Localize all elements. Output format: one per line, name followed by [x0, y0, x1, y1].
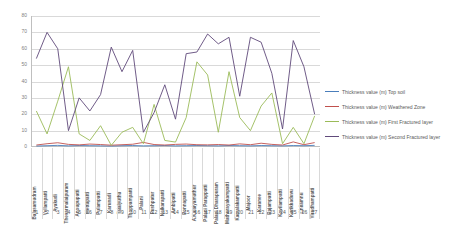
x-axis-number: 3: [52, 205, 63, 219]
x-axis-number: 2: [42, 205, 53, 219]
legend-label: Thickness value (m) Weathered Zone: [342, 104, 425, 110]
x-axis-number: 4: [63, 205, 74, 219]
x-axis-label-cell: Pushpatur: [149, 148, 160, 205]
legend-color-swatch: [325, 91, 339, 92]
x-axis-label-cell: Balasamudram: [31, 148, 42, 205]
y-axis-tick-label: 60: [21, 46, 27, 51]
x-axis-label-cell: Ayakudi: [52, 148, 63, 205]
x-axis-label-cell: Kamalakampatti: [234, 148, 245, 205]
chart-container: 01020304050607080 BalasamudramVellampatt…: [0, 0, 461, 230]
legend-color-swatch: [325, 106, 339, 107]
y-axis-tick-label: 50: [21, 62, 27, 67]
x-axis-number: 21: [245, 205, 256, 219]
x-axis-number: 6: [85, 205, 96, 219]
y-axis-tick-label: 0: [24, 144, 27, 149]
x-axis-label-cell: Anoupupatti: [74, 148, 85, 205]
x-axis-label-cell: Kurikkaduvu: [288, 148, 299, 205]
legend-color-swatch: [325, 136, 339, 137]
x-axis-number: 24: [277, 205, 288, 219]
legend-color-swatch: [325, 121, 339, 122]
x-axis-number: 7: [95, 205, 106, 219]
x-axis-number: 17: [202, 205, 213, 219]
x-axis-number: 20: [234, 205, 245, 219]
series-line: [36, 62, 314, 146]
legend-label: Thickness value (m) Second Fractured lay…: [342, 134, 440, 140]
x-axis-number: 11: [138, 205, 149, 219]
x-axis-label-cell: Ambipatti: [170, 148, 181, 205]
x-axis-label-cell: Kovilampatti: [277, 148, 288, 205]
x-axis-label-cell: Majoor: [245, 148, 256, 205]
x-axis-numbers: 1234567891011121314151617181920212223242…: [31, 205, 320, 219]
x-axis-number: 23: [266, 205, 277, 219]
y-axis-tick-label: 40: [21, 79, 27, 84]
x-axis-number: 5: [74, 205, 85, 219]
x-axis-number: 25: [288, 205, 299, 219]
x-axis-number: 15: [181, 205, 192, 219]
x-axis-number: 27: [309, 205, 320, 219]
x-axis-label-cell: Pulampatti: [95, 148, 106, 205]
chart-legend: Thickness value (m) Top soilThickness va…: [325, 86, 461, 146]
x-axis-label-cell: Mathurayakampatti: [224, 148, 235, 205]
x-axis-label-cell: Neikarapatti: [159, 148, 170, 205]
y-axis-tick-label: 80: [21, 13, 27, 18]
x-axis-label-cell: Chilamnu: [299, 148, 310, 205]
x-axis-number: 10: [127, 205, 138, 219]
x-axis-number: 14: [170, 205, 181, 219]
x-axis-label-cell: Karanee: [256, 148, 267, 205]
x-axis-number: 22: [256, 205, 267, 219]
x-axis-label-cell: Vellampatti: [42, 148, 53, 205]
x-axis-label-cell: Karunadi: [106, 148, 117, 205]
x-axis-number: 13: [159, 205, 170, 219]
plot-area: [31, 16, 320, 147]
series-lines: [31, 16, 320, 147]
series-line: [36, 145, 314, 146]
x-axis-number: 8: [106, 205, 117, 219]
x-axis-label-cell: Palani Parappatti: [202, 148, 213, 205]
x-axis-label-cell: Virudhampatti: [309, 148, 320, 205]
x-axis-number: 9: [117, 205, 128, 219]
legend-item[interactable]: Thickness value (m) First Fractured laye…: [325, 116, 461, 127]
y-axis-tick-label: 70: [21, 29, 27, 34]
y-axis-tick-label: 30: [21, 95, 27, 100]
x-axis-number: 26: [299, 205, 310, 219]
x-axis-number: 19: [224, 205, 235, 219]
legend-item[interactable]: Thickness value (m) Second Fractured lay…: [325, 131, 461, 142]
y-axis: 01020304050607080: [0, 0, 31, 147]
x-axis-label-cell: Mettupatti: [85, 148, 96, 205]
x-axis-number: 12: [149, 205, 160, 219]
x-axis-label-cell: Thoppampatti: [127, 148, 138, 205]
x-axis-label-cell: Ponnapatti: [181, 148, 192, 205]
y-axis-tick-label: 10: [21, 128, 27, 133]
x-axis-label-cell: A.Kalaiyamuthur: [192, 148, 203, 205]
x-axis-labels: BalasamudramVellampattiAyakudiThevarmala…: [31, 148, 320, 205]
x-axis-number: 18: [213, 205, 224, 219]
legend-item[interactable]: Thickness value (m) Top soil: [325, 86, 461, 97]
x-axis-number: 1: [31, 205, 42, 219]
x-axis-label-cell: Palani Dharapuram: [213, 148, 224, 205]
x-axis-number: 16: [192, 205, 203, 219]
legend-item[interactable]: Thickness value (m) Weathered Zone: [325, 101, 461, 112]
x-axis-label-cell: Thevarmalaipuram: [63, 148, 74, 205]
legend-label: Thickness value (m) Top soil: [342, 89, 405, 95]
legend-label: Thickness value (m) First Fractured laye…: [342, 119, 433, 125]
x-axis-label-cell: Rajampatti: [266, 148, 277, 205]
x-axis-label-cell: Palani: [138, 148, 149, 205]
series-line: [36, 32, 314, 132]
x-axis-label-cell: Talaiyuthu: [117, 148, 128, 205]
y-axis-tick-label: 20: [21, 111, 27, 116]
